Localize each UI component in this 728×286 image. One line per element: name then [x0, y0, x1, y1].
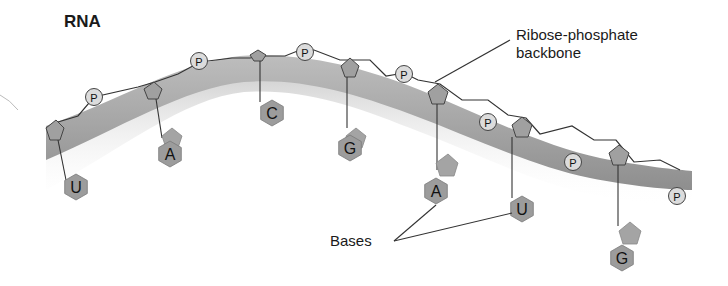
svg-text:P: P	[301, 47, 308, 59]
bases-callout-line-u	[394, 213, 512, 241]
base-c: C	[261, 100, 284, 126]
base-u: U	[511, 196, 534, 222]
svg-text:P: P	[90, 92, 97, 104]
phosphate-group: P	[86, 89, 103, 106]
bases-label: Bases	[330, 232, 372, 250]
base-u: U	[65, 174, 88, 200]
svg-text:A: A	[165, 146, 176, 163]
svg-text:P: P	[569, 157, 576, 169]
svg-text:U: U	[516, 201, 528, 218]
svg-text:P: P	[484, 117, 491, 129]
svg-text:P: P	[400, 69, 407, 81]
phosphate-group: P	[480, 114, 497, 131]
decorative-arc	[0, 95, 18, 110]
phosphate-group: P	[565, 154, 582, 171]
svg-text:P: P	[673, 191, 680, 203]
phosphate-group: P	[191, 53, 208, 70]
backbone-label: Ribose-phosphate backbone	[516, 26, 696, 62]
svg-text:A: A	[431, 183, 442, 200]
svg-text:G: G	[344, 140, 356, 157]
base-g: G	[611, 245, 634, 271]
svg-text:P: P	[195, 56, 202, 68]
svg-text:U: U	[70, 179, 82, 196]
base-a: A	[425, 178, 448, 204]
phosphate-group: P	[669, 188, 686, 205]
svg-text:G: G	[616, 250, 628, 267]
phosphate-group: P	[297, 44, 314, 61]
diagram-title: RNA	[64, 12, 101, 32]
backbone-callout-line	[435, 40, 510, 82]
phosphate-group: P	[396, 66, 413, 83]
svg-text:C: C	[266, 105, 278, 122]
rna-diagram: UACGAUG P P P P P P P RNA Ribose-phospha…	[0, 0, 728, 286]
